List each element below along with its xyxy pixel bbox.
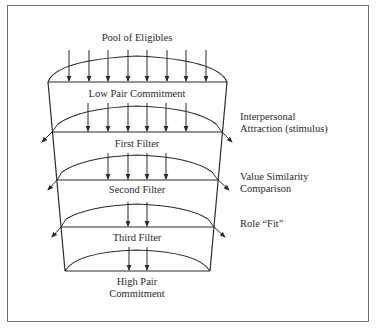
arc-second xyxy=(62,155,212,172)
arc-pool xyxy=(48,56,227,82)
third-filter-arrows xyxy=(128,202,147,226)
commitment-label: Commitment xyxy=(109,288,164,300)
filter2-label-line2: Comparison xyxy=(240,183,291,195)
filter2-label-line1: Value Similarity xyxy=(240,171,309,183)
pool-arrows xyxy=(69,50,206,81)
third-filter-label: Third Filter xyxy=(113,232,162,244)
filter1-label-line2: Attraction (stimulus) xyxy=(240,123,328,135)
arc-first xyxy=(58,106,216,124)
filter-funnel-diagram xyxy=(0,0,376,329)
first-filter-arrows xyxy=(88,103,186,131)
pool-of-eligibles-label: Pool of Eligibles xyxy=(102,32,173,44)
low-pair-commitment-label: Low Pair Commitment xyxy=(89,88,186,100)
filter3-label: Role “Fit” xyxy=(240,218,283,230)
second-filter-label: Second Filter xyxy=(109,184,165,196)
funnel-right-side xyxy=(210,82,227,271)
arc-high xyxy=(65,250,210,271)
high-pair-label: High Pair xyxy=(117,276,158,288)
filter1-label-line1: Interpersonal xyxy=(240,111,295,123)
arc-third xyxy=(66,204,208,219)
funnel-left-side xyxy=(48,82,65,271)
first-filter-label: First Filter xyxy=(115,138,160,150)
